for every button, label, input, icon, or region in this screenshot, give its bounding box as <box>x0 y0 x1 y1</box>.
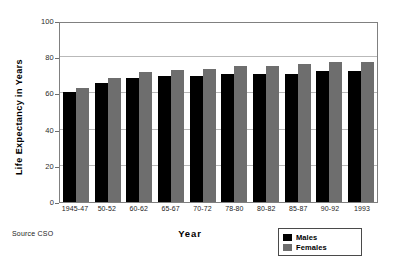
x-axis-title: Year <box>150 228 230 239</box>
legend-item: Males <box>283 232 357 242</box>
source-note: Source CSO <box>12 230 53 237</box>
bar-males-1993 <box>348 71 361 202</box>
bar-females-1993 <box>361 62 374 202</box>
bar-group <box>190 23 216 202</box>
bar-group <box>253 23 279 202</box>
bar-females-70-72 <box>203 69 216 202</box>
x-axis-tick-label: 60-62 <box>123 205 155 219</box>
bar-females-78-80 <box>234 66 247 202</box>
bar-males-90-92 <box>316 71 329 202</box>
bar-males-50-52 <box>95 83 108 202</box>
y-axis-tick-label: 40 <box>14 126 54 135</box>
x-axis-tick-label: 1945-47 <box>59 205 91 219</box>
x-axis-tick-label: 70-72 <box>187 205 219 219</box>
bar-group <box>221 23 247 202</box>
bar-group <box>158 23 184 202</box>
bar-group <box>63 23 89 202</box>
y-axis-tick-mark <box>55 203 59 204</box>
y-axis-tick-label: 0 <box>14 198 54 207</box>
y-axis-tick-label: 20 <box>14 162 54 171</box>
plot-area <box>59 22 378 203</box>
legend-swatch-icon <box>283 234 292 241</box>
bar-females-50-52 <box>108 78 121 202</box>
legend-label: Females <box>296 243 327 252</box>
cut-off-title: Life Expectancy <box>6 0 126 3</box>
x-axis-tick-label: 90-92 <box>314 205 346 219</box>
legend-item: Females <box>283 242 357 252</box>
bar-females-90-92 <box>329 62 342 202</box>
bar-group <box>316 23 342 202</box>
bar-females-60-62 <box>139 72 152 202</box>
x-axis-tick-label: 1993 <box>346 205 378 219</box>
x-axis-tick-label: 80-82 <box>250 205 282 219</box>
bar-group <box>285 23 311 202</box>
y-axis-tick-label: 60 <box>14 89 54 98</box>
bar-males-70-72 <box>190 76 203 202</box>
chart-figure: Life Expectancy Life Expectancy in Years… <box>0 0 398 266</box>
x-axis-tick-label: 78-80 <box>218 205 250 219</box>
bar-females-1945-47 <box>76 88 89 202</box>
bar-females-80-82 <box>266 66 279 202</box>
legend: MalesFemales <box>278 228 362 256</box>
bar-males-1945-47 <box>63 92 76 202</box>
bar-males-65-67 <box>158 76 171 202</box>
y-axis-tick-label: 80 <box>14 53 54 62</box>
y-axis-tick-label: 100 <box>14 17 54 26</box>
bar-males-60-62 <box>126 78 139 202</box>
x-axis-tick-label: 50-52 <box>91 205 123 219</box>
bar-group <box>126 23 152 202</box>
x-axis-tick-label: 65-67 <box>155 205 187 219</box>
bar-group <box>95 23 121 202</box>
bar-males-85-87 <box>285 74 298 203</box>
legend-label: Males <box>296 233 317 242</box>
bar-groups <box>60 23 377 202</box>
bar-females-85-87 <box>298 64 311 202</box>
x-axis-tick-label: 85-87 <box>282 205 314 219</box>
bar-males-78-80 <box>221 74 234 202</box>
x-axis-tick-labels: 1945-4750-5260-6265-6770-7278-8080-8285-… <box>59 205 378 219</box>
bar-group <box>348 23 374 202</box>
bar-males-80-82 <box>253 74 266 202</box>
legend-swatch-icon <box>283 244 292 251</box>
bar-females-65-67 <box>171 70 184 202</box>
